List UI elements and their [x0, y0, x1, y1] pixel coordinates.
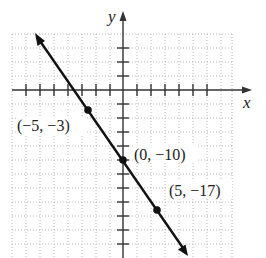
y-axis-arrow-icon [120, 11, 127, 21]
point-label-0-neg10: (0, −10) [134, 146, 186, 164]
y-axis-label: y [106, 7, 116, 26]
point-0-neg10 [119, 156, 127, 164]
point-label-5-neg17: (5, −17) [169, 182, 221, 200]
x-axis [12, 84, 252, 96]
line-arrow-down-icon [178, 245, 188, 257]
y-axis [117, 11, 129, 258]
point-label-neg5-neg3: (−5, −3) [17, 117, 70, 135]
point-5-neg17 [153, 206, 161, 214]
x-axis-label: x [242, 93, 251, 112]
coordinate-plane: y x (−5, −3) (0, −10) (5, −17) [0, 0, 266, 258]
data-line [35, 33, 188, 256]
point-neg5-neg3 [84, 106, 92, 114]
